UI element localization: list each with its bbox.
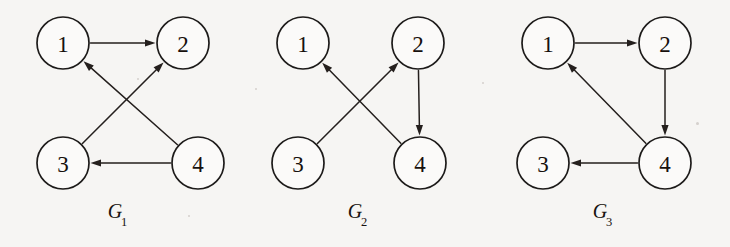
node-G2-4[interactable]: 4 — [394, 137, 446, 189]
caption-subscript: 3 — [606, 215, 612, 229]
node-G2-2[interactable]: 2 — [392, 17, 444, 69]
node-label: 4 — [192, 152, 204, 177]
node-G3-4[interactable]: 4 — [639, 137, 691, 189]
node-G1-2[interactable]: 2 — [157, 17, 209, 69]
caption-G1: G1 — [78, 200, 158, 227]
caption-letter: G — [108, 200, 122, 222]
node-label: 3 — [57, 152, 69, 177]
directed-graph-figure: 123412341234 G1G2G3 — [0, 0, 730, 247]
node-label: 2 — [177, 32, 189, 57]
paper-speck — [137, 78, 139, 80]
edge-G3-2-to-4 — [661, 71, 668, 136]
arrowhead-icon — [416, 125, 423, 136]
edge-G2-2-to-4 — [416, 71, 423, 136]
arrowhead-icon — [145, 39, 156, 46]
node-label: 1 — [542, 32, 554, 57]
arrowhead-icon — [627, 39, 638, 46]
edge-G3-4-to-3 — [571, 159, 638, 166]
node-G2-1[interactable]: 1 — [277, 17, 329, 69]
edge-G1-1-to-2 — [91, 39, 156, 46]
node-G3-1[interactable]: 1 — [522, 17, 574, 69]
node-G1-1[interactable]: 1 — [37, 17, 89, 69]
node-label: 1 — [297, 32, 309, 57]
edge-G1-3-to-2 — [82, 62, 163, 143]
node-G2-3[interactable]: 3 — [272, 137, 324, 189]
node-label: 2 — [659, 32, 671, 57]
node-G3-3[interactable]: 3 — [517, 137, 569, 189]
arrowhead-icon — [661, 125, 668, 136]
edge-G1-4-to-3 — [91, 159, 171, 166]
arrowhead-icon — [91, 159, 102, 166]
edge-G3-1-to-2 — [576, 39, 638, 46]
paper-speck — [255, 88, 257, 90]
paper-speck — [188, 215, 190, 217]
caption-subscript: 1 — [121, 215, 127, 229]
paper-speck — [696, 122, 699, 125]
caption-subscript: 2 — [361, 215, 367, 229]
node-G3-2[interactable]: 2 — [639, 17, 691, 69]
node-label: 1 — [57, 32, 69, 57]
caption-letter: G — [593, 200, 607, 222]
node-G1-3[interactable]: 3 — [37, 137, 89, 189]
edge-G2-3-to-2 — [317, 62, 398, 143]
arrowhead-icon — [571, 159, 582, 166]
caption-G2: G2 — [318, 200, 398, 227]
node-G1-4[interactable]: 4 — [172, 137, 224, 189]
node-label: 3 — [292, 152, 304, 177]
paper-speck — [482, 82, 484, 84]
node-label: 2 — [412, 32, 424, 57]
edge-G3-4-to-1 — [567, 63, 646, 144]
edge-G2-4-to-1 — [322, 63, 401, 144]
caption-G3: G3 — [563, 200, 643, 227]
node-label: 4 — [414, 152, 426, 177]
edge-G1-4-to-1 — [84, 61, 178, 144]
caption-letter: G — [348, 200, 362, 222]
node-label: 4 — [659, 152, 671, 177]
node-label: 3 — [537, 152, 549, 177]
